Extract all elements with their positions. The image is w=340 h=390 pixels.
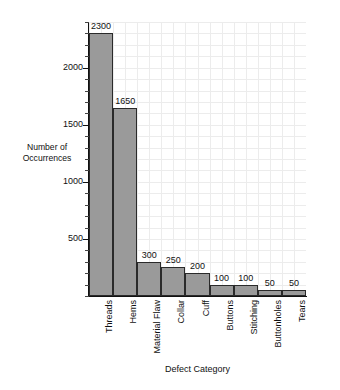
y-tick-minor — [85, 193, 89, 194]
y-tick-minor — [85, 113, 89, 114]
bar-value-label: 2300 — [85, 21, 117, 31]
category-label: Stitching — [250, 300, 259, 335]
y-tick-label: 1000 — [31, 177, 83, 186]
y-tick-label: 500 — [31, 234, 83, 243]
y-tick-minor — [85, 22, 89, 23]
category-label: Hems — [129, 300, 138, 324]
category-label: Tears — [298, 300, 307, 322]
y-tick-minor — [85, 205, 89, 206]
x-axis-line — [88, 296, 307, 297]
y-tick-major — [83, 182, 89, 183]
y-tick-minor — [85, 102, 89, 103]
plot-area — [89, 22, 306, 296]
bar-value-label: 50 — [278, 278, 310, 288]
x-axis-title: Defect Category — [89, 364, 306, 374]
y-tick-major — [83, 125, 89, 126]
y-tick-minor — [85, 148, 89, 149]
y-tick-minor — [85, 285, 89, 286]
bar — [137, 262, 161, 296]
y-axis-title-line: Occurrences — [14, 153, 80, 164]
y-axis-title-line: Number of — [14, 142, 80, 153]
y-tick-minor — [85, 159, 89, 160]
category-label: Threads — [105, 300, 114, 333]
bar — [210, 285, 234, 296]
y-tick-label: 2000 — [31, 63, 83, 72]
bar — [113, 108, 137, 296]
bar-value-label: 1650 — [109, 96, 141, 106]
bar-chart: 230016503002502001001005050 500100015002… — [0, 0, 340, 390]
y-tick-minor — [85, 273, 89, 274]
category-label: Cuff — [202, 300, 211, 316]
y-tick-minor — [85, 262, 89, 263]
category-label: Buttons — [226, 300, 235, 331]
y-tick-label: 1500 — [31, 120, 83, 129]
y-axis-title: Number ofOccurrences — [14, 142, 80, 164]
y-tick-minor — [85, 170, 89, 171]
y-tick-minor — [85, 296, 89, 297]
category-label: Material Flaw — [153, 300, 162, 354]
category-label: Collar — [177, 300, 186, 324]
y-tick-major — [83, 239, 89, 240]
category-label: Buttonholes — [274, 300, 283, 348]
y-tick-minor — [85, 216, 89, 217]
y-tick-minor — [85, 45, 89, 46]
y-tick-minor — [85, 228, 89, 229]
y-tick-minor — [85, 136, 89, 137]
y-tick-minor — [85, 250, 89, 251]
y-tick-minor — [85, 33, 89, 34]
bar — [161, 267, 185, 296]
y-tick-minor — [85, 91, 89, 92]
y-tick-major — [83, 68, 89, 69]
bar — [89, 33, 113, 296]
y-tick-minor — [85, 79, 89, 80]
y-tick-minor — [85, 56, 89, 57]
bar-value-label: 200 — [181, 261, 213, 271]
bars-layer — [89, 22, 306, 296]
